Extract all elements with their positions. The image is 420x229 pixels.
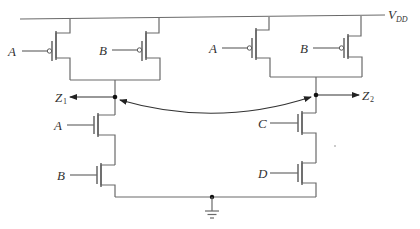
pmos-left-a: A: [7, 19, 70, 80]
z1-output: Z 1: [55, 90, 117, 106]
gate-label-b: B: [300, 41, 308, 56]
gate-label-d: D: [257, 166, 268, 181]
gate-label-b: B: [99, 43, 107, 58]
z1-label: Z: [55, 90, 63, 105]
gate-label-a: A: [53, 118, 62, 133]
gate-label-a: A: [208, 41, 217, 56]
z1-node: [113, 95, 118, 100]
pmos-right-b: B: [300, 16, 362, 77]
nmos-left-b: B: [57, 163, 115, 197]
nmos-left-a: A: [53, 113, 115, 165]
vdd-rail: V DD: [20, 7, 408, 24]
gate-label-a: A: [7, 44, 16, 59]
gate-label-b: B: [57, 168, 65, 183]
z2-node: [314, 93, 319, 98]
z1-subscript: 1: [63, 97, 67, 106]
circuit-diagram: V DD A B Z 1 A: [0, 0, 420, 229]
curved-double-arrow: [120, 97, 311, 113]
vdd-subscript: DD: [395, 15, 408, 24]
nmos-right-c: C: [258, 111, 316, 163]
nmos-right-d: D: [257, 161, 316, 197]
z2-subscript: 2: [370, 95, 374, 104]
z2-label: Z: [362, 88, 370, 103]
gate-label-c: C: [258, 116, 267, 131]
pmos-right-a: A: [208, 17, 270, 77]
ground-icon: [205, 195, 219, 218]
stray-mark: [334, 145, 336, 147]
pmos-left-b: B: [99, 18, 160, 80]
z2-output: Z 2: [314, 88, 374, 104]
